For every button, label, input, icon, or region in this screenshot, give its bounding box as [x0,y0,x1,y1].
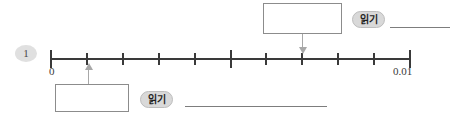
lower-answer-box[interactable] [55,84,129,112]
axis-start-label: 0 [49,65,55,77]
tick-7 [301,53,303,65]
numberline-worksheet: 1 0 0.01 읽기 읽기 [0,0,450,130]
upper-reading-label: 읽기 [352,11,385,28]
arrow-down-icon [299,47,307,54]
tick-8 [337,53,339,65]
tick-3 [158,53,160,65]
tick-9 [373,53,375,65]
problem-number-badge: 1 [15,45,37,62]
tick-4 [194,53,196,65]
lower-reading-label: 읽기 [140,91,173,108]
axis-end-label: 0.01 [393,65,412,77]
tick-2 [122,53,124,65]
upper-answer-box[interactable] [263,3,342,34]
lower-answer-rule[interactable] [185,106,327,107]
tick-5 [230,50,232,68]
arrow-up-icon [85,63,93,70]
lower-arrow-stem [88,68,89,84]
upper-answer-rule[interactable] [390,27,450,28]
tick-6 [265,53,267,65]
